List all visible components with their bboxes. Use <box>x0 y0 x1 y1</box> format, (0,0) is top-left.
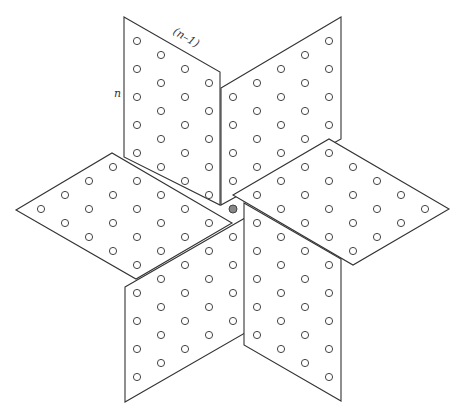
lattice-dot <box>421 205 428 212</box>
lattice-dot <box>229 149 236 156</box>
lattice-dot <box>325 177 332 184</box>
lattice-dot <box>277 261 284 268</box>
lattice-dot <box>277 317 284 324</box>
lattice-dot <box>133 37 140 44</box>
lattice-dot <box>301 191 308 198</box>
center-dot <box>229 205 237 213</box>
lattice-dot <box>277 233 284 240</box>
lattice-dot <box>373 205 380 212</box>
lattice-dot <box>181 289 188 296</box>
lattice-dot <box>181 233 188 240</box>
lattice-dot <box>397 219 404 226</box>
lattice-dot <box>253 163 260 170</box>
lattice-dot <box>397 191 404 198</box>
lattice-dot <box>181 317 188 324</box>
lattice-dot <box>229 121 236 128</box>
lattice-dot <box>157 219 164 226</box>
lattice-dot <box>61 219 68 226</box>
lattice-dot <box>157 331 164 338</box>
lattice-dot <box>373 233 380 240</box>
lattice-dot <box>253 275 260 282</box>
lattice-dot <box>157 359 164 366</box>
lattice-dot <box>157 303 164 310</box>
lattice-dot <box>253 107 260 114</box>
lattice-dot <box>181 121 188 128</box>
lattice-dot <box>301 359 308 366</box>
lattice-dot <box>373 177 380 184</box>
lattice-dot <box>181 177 188 184</box>
lattice-dot <box>277 149 284 156</box>
lattice-dot <box>325 261 332 268</box>
lattice-dot <box>181 65 188 72</box>
lattice-dot <box>205 135 212 142</box>
lattice-dot <box>229 261 236 268</box>
lattice-dot <box>301 79 308 86</box>
lattice-dot <box>61 191 68 198</box>
lattice-dot <box>181 205 188 212</box>
lattice-dot <box>325 233 332 240</box>
lattice-dot <box>325 149 332 156</box>
lattice-dot <box>157 135 164 142</box>
lattice-dot <box>277 205 284 212</box>
lattice-dot <box>349 219 356 226</box>
lattice-dot <box>325 373 332 380</box>
lattice-dot <box>349 247 356 254</box>
lattice-dot <box>157 79 164 86</box>
lattice-dot <box>133 205 140 212</box>
lattice-dot <box>229 93 236 100</box>
lattice-dot <box>253 191 260 198</box>
lattice-dot <box>325 65 332 72</box>
lattice-dot <box>325 317 332 324</box>
lattice-dot <box>157 51 164 58</box>
lattice-dot <box>253 219 260 226</box>
lattice-dot <box>349 191 356 198</box>
lattice-dot <box>277 345 284 352</box>
lattice-dot <box>181 345 188 352</box>
lattice-dot <box>109 191 116 198</box>
lattice-dot <box>325 205 332 212</box>
lattice-dot <box>253 303 260 310</box>
lattice-dot <box>133 373 140 380</box>
lattice-dot <box>205 247 212 254</box>
lattice-dot <box>133 317 140 324</box>
lattice-dot <box>85 205 92 212</box>
lattice-dot <box>181 149 188 156</box>
lattice-dot <box>301 163 308 170</box>
lattice-dot <box>181 261 188 268</box>
lattice-dot <box>133 93 140 100</box>
lattice-dot <box>157 191 164 198</box>
lattice-dot <box>277 65 284 72</box>
lattice-dot <box>133 233 140 240</box>
lattice-dot <box>301 275 308 282</box>
lattice-dot <box>133 261 140 268</box>
lattice-dot <box>205 79 212 86</box>
lattice-dot <box>205 191 212 198</box>
lattice-dot <box>325 345 332 352</box>
lattice-dot <box>157 247 164 254</box>
lattice-dot <box>301 303 308 310</box>
lattice-dot <box>301 107 308 114</box>
lattice-dot <box>205 219 212 226</box>
lattice-dot <box>157 107 164 114</box>
lattice-dot <box>157 163 164 170</box>
lattice-dot <box>301 247 308 254</box>
lattice-dot <box>277 93 284 100</box>
lattice-dot <box>301 51 308 58</box>
lattice-dot <box>205 331 212 338</box>
lattice-dot <box>325 37 332 44</box>
lattice-dot <box>109 219 116 226</box>
lattice-dot <box>229 317 236 324</box>
lattice-dot <box>85 233 92 240</box>
lattice-dot <box>181 93 188 100</box>
lattice-dot <box>205 275 212 282</box>
lattice-dot <box>205 303 212 310</box>
lattice-dot <box>205 163 212 170</box>
lattice-dot <box>277 289 284 296</box>
lattice-dot <box>133 177 140 184</box>
lattice-dot <box>301 135 308 142</box>
lattice-dot <box>325 121 332 128</box>
lattice-dot <box>277 177 284 184</box>
lattice-dot <box>133 345 140 352</box>
lattice-dot <box>157 275 164 282</box>
lattice-dot <box>325 93 332 100</box>
